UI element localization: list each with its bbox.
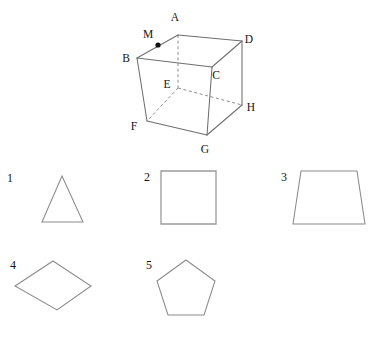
figure-canvas: A B C D E F G H M 1 2 3 4 [0, 0, 373, 338]
cube-solid-edges [137, 35, 242, 135]
trapezoid-shape [293, 171, 365, 224]
cube-hidden-edges [147, 35, 242, 121]
shape-option-2: 2 [144, 170, 216, 224]
cube-group: A B C D E F G H M [122, 11, 255, 155]
edge-C-D [212, 41, 242, 67]
edge-F-G [147, 121, 207, 135]
shape-number-4: 4 [10, 258, 16, 272]
triangle-shape [42, 176, 83, 222]
shape-option-1: 1 [7, 171, 83, 222]
edge-A-D [178, 35, 242, 41]
hidden-edge-E-F [147, 88, 178, 121]
vertex-label-F: F [131, 120, 137, 132]
shape-option-3: 3 [281, 170, 365, 224]
shape-number-3: 3 [281, 170, 287, 184]
pentagon-shape [157, 260, 215, 315]
edge-G-H [207, 105, 242, 135]
vertex-label-D: D [245, 33, 253, 45]
vertex-label-B: B [122, 52, 130, 64]
shape-number-5: 5 [146, 258, 152, 272]
vertex-label-E: E [163, 78, 170, 90]
geometry-worksheet-figure: A B C D E F G H M 1 2 3 4 [0, 0, 373, 338]
answer-shapes-group: 1 2 3 4 5 [7, 170, 365, 315]
vertex-label-A: A [171, 11, 180, 23]
vertex-label-H: H [247, 101, 255, 113]
shape-number-2: 2 [144, 170, 150, 184]
vertex-label-M: M [143, 28, 153, 40]
vertex-label-C: C [212, 69, 220, 81]
square-shape [161, 171, 216, 224]
edge-B-C [137, 58, 212, 67]
point-m-marker-dot [155, 42, 160, 47]
vertex-label-G: G [201, 143, 209, 155]
shape-option-5: 5 [146, 258, 215, 315]
edge-B-F [137, 58, 147, 121]
shape-option-4: 4 [10, 258, 91, 310]
shape-number-1: 1 [7, 171, 13, 185]
rhombus-shape [15, 261, 91, 310]
